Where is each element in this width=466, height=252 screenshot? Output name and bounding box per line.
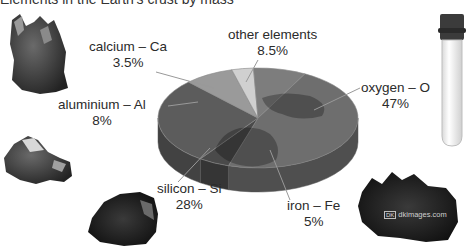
watermark-badge: DK xyxy=(384,211,396,219)
label-oxygen-name: oxygen – O xyxy=(361,80,430,96)
calcium-crystal-sample xyxy=(10,14,68,94)
label-iron-value: 5% xyxy=(287,214,340,230)
label-aluminium: aluminium – Al 8% xyxy=(58,97,146,129)
label-iron: iron – Fe 5% xyxy=(287,198,340,230)
watermark-text: dkimages.com xyxy=(398,210,446,219)
oxygen-test-tube xyxy=(438,14,466,146)
label-silicon-value: 28% xyxy=(157,197,222,213)
label-aluminium-name: aluminium – Al xyxy=(58,97,146,113)
aluminium-ore-sample xyxy=(4,136,72,184)
label-calcium-value: 3.5% xyxy=(89,55,167,71)
label-iron-name: iron – Fe xyxy=(287,198,340,214)
label-calcium: calcium – Ca 3.5% xyxy=(89,39,167,71)
silicon-rock-sample xyxy=(88,192,158,246)
label-other-elements: other elements 8.5% xyxy=(228,27,317,59)
label-oxygen: oxygen – O 47% xyxy=(361,80,430,112)
label-oxygen-value: 47% xyxy=(361,96,430,112)
pie-chart xyxy=(158,68,358,192)
watermark: DKdkimages.com xyxy=(384,210,447,219)
label-other-name: other elements xyxy=(228,27,317,43)
label-silicon: silicon – Si 28% xyxy=(157,181,222,213)
label-silicon-name: silicon – Si xyxy=(157,181,222,197)
iron-ore-sample xyxy=(358,172,458,242)
label-calcium-name: calcium – Ca xyxy=(89,39,167,55)
label-aluminium-value: 8% xyxy=(58,113,146,129)
label-other-value: 8.5% xyxy=(228,43,317,59)
